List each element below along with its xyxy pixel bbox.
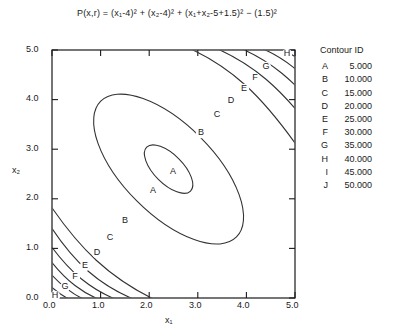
svg-text:B: B bbox=[122, 215, 128, 225]
legend-row: J50.000 bbox=[314, 179, 372, 192]
legend-row: A5.000 bbox=[314, 60, 372, 73]
xtick-label-5: 5.0 bbox=[286, 300, 299, 310]
legend-row-value: 5.000 bbox=[328, 60, 372, 73]
legend-row-value: 40.000 bbox=[328, 153, 372, 166]
ytick-label-3: 3.0 bbox=[26, 143, 39, 153]
svg-text:H: H bbox=[284, 48, 291, 58]
contour-label-G-lower: G bbox=[60, 281, 70, 292]
contour-line-A bbox=[136, 137, 200, 201]
xtick-label-3: 3.0 bbox=[189, 300, 202, 310]
legend-row-value: 30.000 bbox=[328, 126, 372, 139]
ytick-label-1: 1.0 bbox=[26, 242, 39, 252]
ytick-label-5: 5.0 bbox=[26, 44, 39, 54]
legend-row-id: F bbox=[314, 126, 328, 139]
x-axis-title: x₁ bbox=[165, 315, 173, 325]
ytick-label-2: 2.0 bbox=[26, 192, 39, 202]
svg-text:C: C bbox=[214, 109, 221, 119]
legend-row-id: B bbox=[314, 73, 328, 86]
svg-text:H: H bbox=[52, 290, 59, 300]
contour-label-G-upper: G bbox=[261, 61, 271, 72]
svg-text:D: D bbox=[228, 95, 235, 105]
xtick-label-0: 0.0 bbox=[43, 300, 56, 310]
svg-text:A: A bbox=[170, 166, 176, 176]
legend-row-value: 15.000 bbox=[328, 87, 372, 100]
contour-label-E-upper: E bbox=[239, 83, 249, 94]
y-axis-title: x₂ bbox=[12, 165, 20, 175]
contour-plot-figure: P(x,r) = (x₁-4)² + (x₂-4)² + (x₁+x₂-5+1.… bbox=[0, 0, 393, 333]
contour-label-D-upper: D bbox=[226, 95, 236, 106]
xtick-label-4: 4.0 bbox=[237, 300, 250, 310]
legend-row-value: 50.000 bbox=[328, 179, 372, 192]
legend-row-id: J bbox=[314, 179, 328, 192]
legend-row-id: A bbox=[314, 60, 328, 73]
contour-line-D-upper bbox=[206, 44, 320, 140]
legend-row-id: I bbox=[314, 166, 328, 179]
contour-line-B bbox=[69, 69, 268, 268]
legend-row-id: H bbox=[314, 153, 328, 166]
contour-label-B-lower: B bbox=[120, 215, 130, 226]
xtick-label-2: 2.0 bbox=[140, 300, 153, 310]
svg-text:B: B bbox=[198, 127, 204, 137]
contour-inline-labels: A A B B C C D D E E F F G G H H bbox=[50, 48, 292, 301]
xtick-label-1: 1.0 bbox=[92, 300, 105, 310]
legend-row: G35.000 bbox=[314, 139, 372, 152]
legend-row-id: C bbox=[314, 87, 328, 100]
contour-label-C-lower: C bbox=[105, 232, 115, 243]
svg-text:G: G bbox=[61, 281, 68, 291]
contour-label-D-lower: D bbox=[92, 247, 102, 258]
contour-label-A-lower: A bbox=[148, 185, 158, 196]
svg-text:E: E bbox=[82, 260, 88, 270]
svg-text:D: D bbox=[94, 247, 101, 257]
contour-label-F-lower: F bbox=[70, 271, 80, 282]
legend-row: D20.000 bbox=[314, 100, 372, 113]
legend-row: I45.000 bbox=[314, 166, 372, 179]
legend-row: H40.000 bbox=[314, 153, 372, 166]
legend-rows: A5.000B10.000C15.000D20.000E25.000F30.00… bbox=[314, 60, 372, 192]
legend-row-value: 45.000 bbox=[328, 166, 372, 179]
legend-row-id: D bbox=[314, 100, 328, 113]
ytick-label-4: 4.0 bbox=[26, 93, 39, 103]
legend-row-value: 10.000 bbox=[328, 73, 372, 86]
svg-text:E: E bbox=[241, 83, 247, 93]
contour-label-E-lower: E bbox=[80, 260, 90, 271]
legend-row-value: 20.000 bbox=[328, 100, 372, 113]
contour-label-A-upper: A bbox=[168, 166, 178, 177]
contour-label-B-upper: B bbox=[196, 127, 206, 138]
contour-id-legend: Contour ID A5.000B10.000C15.000D20.000E2… bbox=[314, 44, 372, 192]
ytick-label-0: 0.0 bbox=[26, 292, 39, 302]
legend-row-id: E bbox=[314, 113, 328, 126]
contour-label-C-upper: C bbox=[212, 109, 222, 120]
legend-title: Contour ID bbox=[320, 44, 372, 57]
svg-text:A: A bbox=[150, 185, 156, 195]
contour-line-D-lower bbox=[44, 216, 146, 304]
legend-row-value: 35.000 bbox=[328, 139, 372, 152]
legend-row-value: 25.000 bbox=[328, 113, 372, 126]
svg-text:F: F bbox=[252, 72, 258, 82]
svg-text:F: F bbox=[72, 271, 78, 281]
legend-row: E25.000 bbox=[314, 113, 372, 126]
legend-row: C15.000 bbox=[314, 87, 372, 100]
legend-row: F30.000 bbox=[314, 126, 372, 139]
legend-row: B10.000 bbox=[314, 73, 372, 86]
svg-text:C: C bbox=[107, 232, 114, 242]
svg-text:G: G bbox=[262, 61, 269, 71]
legend-row-id: G bbox=[314, 139, 328, 152]
